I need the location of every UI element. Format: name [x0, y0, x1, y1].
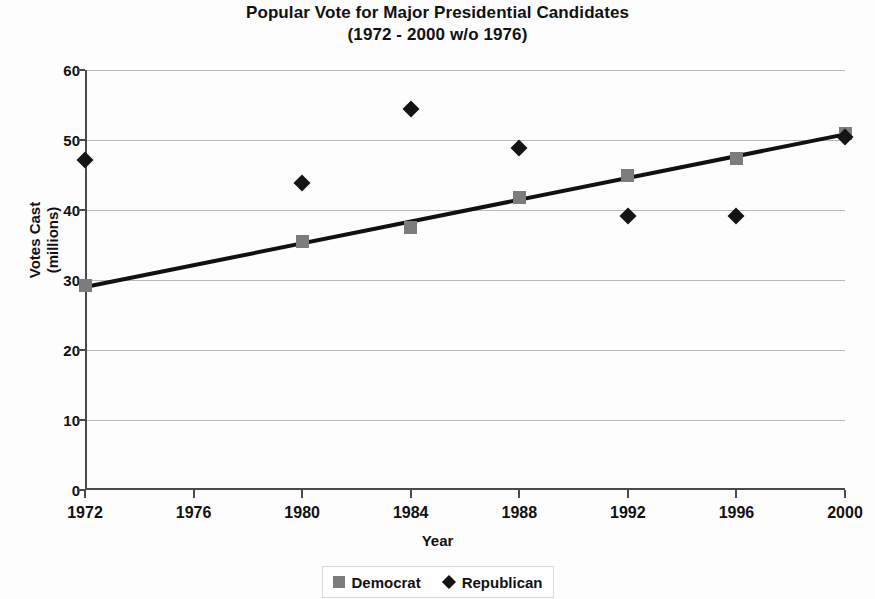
x-tick-label: 1988: [474, 503, 564, 522]
x-tick-mark: [410, 490, 412, 498]
x-tick-label: 1992: [583, 503, 673, 522]
legend-label-republican: Republican: [462, 574, 543, 591]
legend-item-democrat[interactable]: Democrat: [332, 574, 420, 591]
data-point-democrat[interactable]: [621, 169, 634, 182]
x-tick-mark: [518, 490, 520, 498]
x-tick-mark: [844, 490, 846, 498]
x-axis-title: Year: [0, 532, 875, 549]
data-point-democrat[interactable]: [296, 235, 309, 248]
data-point-democrat[interactable]: [513, 191, 526, 204]
diamond-marker-icon: [442, 575, 456, 589]
x-tick-mark: [735, 490, 737, 498]
data-point-democrat[interactable]: [404, 221, 417, 234]
x-tick-mark: [301, 490, 303, 498]
x-tick-label: 1976: [149, 503, 239, 522]
x-tick-label: 1996: [691, 503, 781, 522]
data-point-democrat[interactable]: [79, 279, 92, 292]
chart-legend: Democrat Republican: [321, 566, 553, 598]
chart-container: Popular Vote for Major Presidential Cand…: [0, 0, 875, 599]
x-tick-mark: [627, 490, 629, 498]
x-tick-label: 2000: [800, 503, 875, 522]
square-marker-icon: [332, 576, 344, 588]
data-point-democrat[interactable]: [730, 152, 743, 165]
x-tick-mark: [193, 490, 195, 498]
legend-label-democrat: Democrat: [351, 574, 420, 591]
x-tick-label: 1984: [366, 503, 456, 522]
legend-item-republican[interactable]: Republican: [443, 574, 543, 591]
x-tick-label: 1972: [40, 503, 130, 522]
x-tick-label: 1980: [257, 503, 347, 522]
x-tick-mark: [84, 490, 86, 498]
